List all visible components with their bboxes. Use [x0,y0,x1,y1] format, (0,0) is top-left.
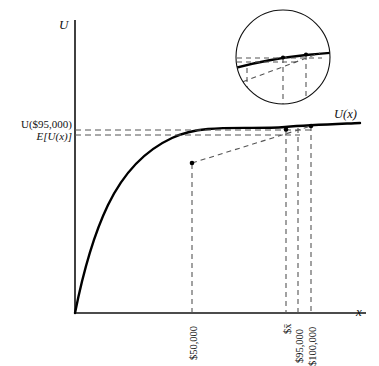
magnified-utility-curve [228,52,352,70]
chord-line [192,126,311,163]
x-tick-label-100000: $100,000 [307,327,318,366]
x-axis-label: x [356,305,362,319]
y-axis-label: U [59,18,68,32]
axes-group [75,20,366,313]
curve-label: U(x) [334,108,357,121]
y-tick-labels: U($95,000) E[U(x)] [0,119,72,142]
y-tick-label-expected-utility: E[U(x)] [0,131,72,143]
x-tick-label-certainty-equivalent: $x̄ [282,324,293,335]
x-tick-label-50000: $50,000 [188,326,199,360]
point-marker-certainty-equivalent [284,127,289,132]
magnifier-contents [226,52,352,110]
magnifier-group [226,10,352,110]
magnified-point-marker-95000 [281,55,285,59]
utility-function-figure: U x U($95,000) E[U(x)] U(x) $50,000 $x̄ … [0,0,379,366]
x-tick-label-95000: $95,000 [294,329,305,363]
utility-curve [75,123,360,313]
magnified-point-marker-100000 [304,52,308,56]
vertical-drop-lines-group [192,126,311,313]
figure-canvas [0,0,379,366]
point-marker-50000 [190,161,195,166]
point-marker-100000 [309,124,314,129]
chord-group [192,126,311,163]
y-tick-label-utility-95000: U($95,000) [0,119,72,131]
utility-curve-group [75,123,360,313]
